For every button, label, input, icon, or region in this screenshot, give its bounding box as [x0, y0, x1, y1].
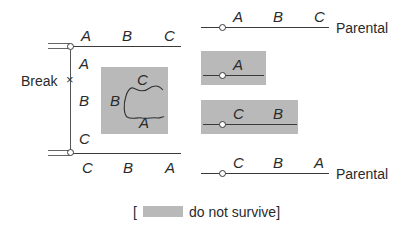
- legend-text: do not survive]: [189, 205, 280, 219]
- parental-bottom-label-c: C: [233, 155, 244, 170]
- parental-top-label-a: A: [233, 9, 243, 24]
- legend-open-bracket: [: [133, 205, 137, 219]
- parental-top-label-c: C: [314, 9, 325, 24]
- fragment-1-label-a: A: [233, 57, 243, 72]
- loop-label-c: C: [137, 72, 148, 87]
- parental-top-centromere-icon: [219, 24, 226, 31]
- loop-label-b: B: [110, 93, 120, 108]
- fragment-2-label-c: C: [233, 106, 244, 121]
- loop-label-a: A: [139, 115, 149, 130]
- fragment-2-centromere-icon: [219, 121, 226, 128]
- fragment-2-label-b: B: [273, 106, 283, 121]
- fragment-1-line: [203, 75, 264, 76]
- legend-swatch: [143, 206, 183, 217]
- parental-top-caption: Parental: [336, 21, 388, 35]
- fragment-2-box: [201, 100, 298, 134]
- parental-bottom-label-a: A: [314, 155, 324, 170]
- parental-top-label-b: B: [273, 9, 283, 24]
- fragment-2-line: [203, 124, 297, 125]
- parental-bottom-centromere-icon: [219, 170, 226, 177]
- parental-bottom-caption: Parental: [336, 167, 388, 181]
- fragment-1-centromere-icon: [219, 72, 226, 79]
- parental-bottom-label-b: B: [273, 155, 283, 170]
